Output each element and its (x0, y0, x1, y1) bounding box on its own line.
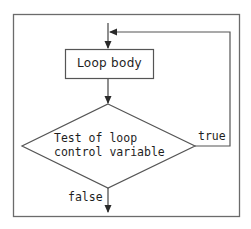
loop-body-label: Loop body (77, 57, 142, 69)
test-label-line2: control variable (54, 147, 165, 159)
true-branch-label: true (198, 131, 226, 143)
false-branch-label: false (68, 192, 103, 204)
flowchart-graphics (0, 0, 251, 229)
test-label-line1: Test of loop (54, 133, 137, 145)
do-while-flowchart: Loop body Test of loop control variable … (0, 0, 251, 229)
